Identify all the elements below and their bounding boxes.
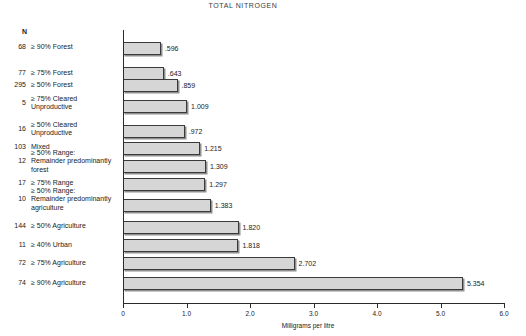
x-axis-label: Milligrams per litre	[0, 322, 526, 329]
bar	[123, 142, 200, 155]
sample-size-column-header: N	[22, 28, 27, 35]
category-label: ≥ 90% Agriculture	[31, 279, 86, 287]
category-label: ≥ 90% Forest	[31, 43, 73, 51]
category-label: ≥ 75% Forest	[31, 69, 73, 77]
bar-value-label: 2.702	[299, 260, 317, 267]
category-label: ≥ 50% Cleared Unproductive	[31, 121, 77, 138]
sample-size-value: 16	[0, 125, 26, 132]
x-axis-tick-label: 6.0	[499, 310, 508, 317]
x-axis-tick-label: 5.0	[436, 310, 445, 317]
bar	[123, 42, 161, 55]
bar-value-label: .596	[165, 45, 179, 52]
sample-size-value: 77	[0, 69, 26, 76]
bar	[123, 178, 205, 191]
bar-value-label: 1.297	[209, 181, 227, 188]
sample-size-value: 72	[0, 259, 26, 266]
sample-size-value: 12	[0, 157, 26, 164]
sample-size-value: 74	[0, 279, 26, 286]
bar-value-label: 1.818	[242, 242, 260, 249]
bar-value-label: 1.820	[243, 224, 261, 231]
x-axis-tick	[250, 303, 251, 308]
sample-size-value: 5	[0, 99, 26, 106]
chart-container: TOTAL NITROGEN N 68≥ 90% Forest.59677≥ 7…	[0, 0, 526, 336]
bar	[123, 239, 238, 252]
bar	[123, 125, 185, 138]
x-axis-tick-label: 4.0	[372, 310, 381, 317]
category-label: ≥ 40% Urban	[31, 241, 72, 249]
category-label: ≥ 50% Range: Remainder predominantly agr…	[31, 187, 111, 212]
bar-value-label: 1.383	[215, 202, 233, 209]
bar-value-label: .643	[168, 70, 182, 77]
x-axis-tick	[187, 303, 188, 308]
sample-size-value: 10	[0, 195, 26, 202]
bar	[123, 199, 211, 212]
x-axis-tick	[441, 303, 442, 308]
x-axis-tick	[314, 303, 315, 308]
bar-value-label: 5.354	[467, 280, 485, 287]
bar-value-label: 1.009	[191, 103, 209, 110]
sample-size-value: 295	[0, 81, 26, 88]
category-label: ≥ 75% Cleared Unproductive	[31, 95, 77, 112]
sample-size-value: 17	[0, 179, 26, 186]
bar	[123, 277, 463, 290]
x-axis-tick	[377, 303, 378, 308]
chart-title-text: TOTAL NITROGEN	[209, 2, 278, 9]
y-axis-line	[123, 30, 124, 304]
sample-size-value: 103	[0, 143, 26, 150]
x-axis-tick-label: 2.0	[245, 310, 254, 317]
bar	[123, 257, 295, 270]
sample-size-value: 11	[0, 241, 26, 248]
category-label: ≥ 50% Range: Remainder predominantly for…	[31, 149, 111, 174]
x-axis-tick-label: 3.0	[309, 310, 318, 317]
category-label: ≥ 75% Agriculture	[31, 259, 86, 267]
sample-size-value: 68	[0, 43, 26, 50]
bar-value-label: .859	[182, 82, 196, 89]
x-axis-tick	[504, 303, 505, 308]
chart-title: TOTAL NITROGEN	[0, 2, 526, 9]
bar-value-label: 1.309	[210, 163, 228, 170]
bar	[123, 79, 178, 92]
x-axis-tick	[123, 303, 124, 308]
bar	[123, 160, 206, 173]
x-axis-label-text: Milligrams per litre	[282, 322, 335, 329]
category-label: ≥ 50% Forest	[31, 81, 73, 89]
x-axis-tick-label: 1.0	[182, 310, 191, 317]
sample-size-value: 144	[0, 222, 26, 229]
bar-value-label: .972	[189, 128, 203, 135]
bar	[123, 221, 239, 234]
x-axis-tick-label: 0	[121, 310, 125, 317]
category-label: ≥ 50% Agriculture	[31, 222, 86, 230]
bar-value-label: 1.215	[204, 145, 222, 152]
bar	[123, 100, 187, 113]
